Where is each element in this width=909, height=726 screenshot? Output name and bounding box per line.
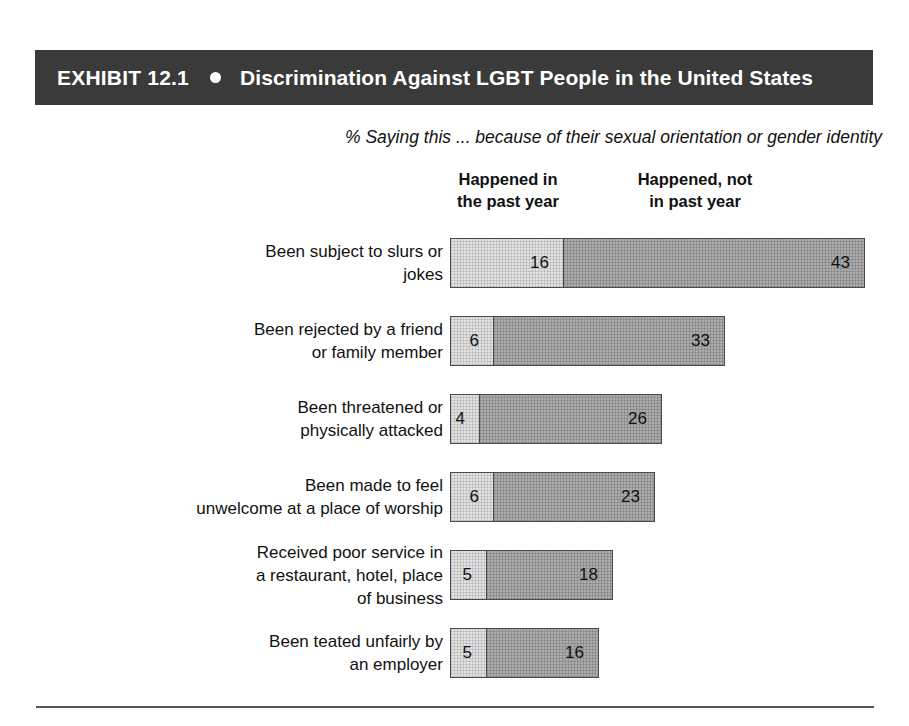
bar-row-label-line: Received poor service in bbox=[23, 541, 443, 564]
bar-segment-value: 6 bbox=[470, 487, 493, 507]
exhibit-number-label: EXHIBIT 12.1 bbox=[57, 66, 189, 90]
bar-segment-past-year: 5 bbox=[451, 629, 486, 677]
bar-row-label: Been subject to slurs orjokes bbox=[23, 240, 443, 286]
stacked-bar: 1643 bbox=[450, 238, 865, 288]
bar-segment-not-past-year: 16 bbox=[486, 629, 598, 677]
bar-rows: Been subject to slurs orjokes1643Been re… bbox=[0, 224, 909, 692]
bar-row-label-line: an employer bbox=[23, 653, 443, 676]
bar-row: Been made to feelunwelcome at a place of… bbox=[0, 458, 909, 536]
bar-row-label-line: Been threatened or bbox=[23, 396, 443, 419]
stacked-bar: 633 bbox=[450, 316, 725, 366]
stacked-bar: 623 bbox=[450, 472, 655, 522]
column-header-not-past-year: Happened, not in past year bbox=[600, 168, 790, 212]
bar-segment-value: 23 bbox=[621, 487, 654, 507]
bar-segment-value: 6 bbox=[470, 331, 493, 351]
chart-subtitle: % Saying this ... because of their sexua… bbox=[0, 127, 882, 148]
stacked-bar: 516 bbox=[450, 628, 599, 678]
bar-row-label-line: a restaurant, hotel, place bbox=[23, 564, 443, 587]
bar-segment-past-year: 6 bbox=[451, 317, 493, 365]
bar-row: Been subject to slurs orjokes1643 bbox=[0, 224, 909, 302]
column-headers: Happened in the past year Happened, not … bbox=[0, 168, 909, 216]
bar-row-label: Been teated unfairly byan employer bbox=[23, 630, 443, 676]
column-header-not-past-year-line2: in past year bbox=[600, 190, 790, 212]
bar-row: Been rejected by a friendor family membe… bbox=[0, 302, 909, 380]
column-header-not-past-year-line1: Happened, not bbox=[600, 168, 790, 190]
bar-segment-not-past-year: 18 bbox=[486, 551, 612, 599]
exhibit-title: Discrimination Against LGBT People in th… bbox=[240, 66, 813, 90]
bar-segment-value: 33 bbox=[691, 331, 724, 351]
stacked-bar: 426 bbox=[450, 394, 662, 444]
bar-row-label-line: jokes bbox=[23, 263, 443, 286]
bar-segment-past-year: 5 bbox=[451, 551, 486, 599]
bar-row-label-line: Been made to feel bbox=[23, 474, 443, 497]
bar-segment-not-past-year: 43 bbox=[563, 239, 864, 287]
bar-segment-value: 16 bbox=[565, 643, 598, 663]
bar-row-label-line: Been rejected by a friend bbox=[23, 318, 443, 341]
bar-segment-value: 4 bbox=[456, 409, 479, 429]
bar-segment-not-past-year: 33 bbox=[493, 317, 724, 365]
bar-row-label-line: Been teated unfairly by bbox=[23, 630, 443, 653]
exhibit-header-bar: EXHIBIT 12.1 Discrimination Against LGBT… bbox=[35, 50, 873, 105]
bar-row: Received poor service ina restaurant, ho… bbox=[0, 536, 909, 614]
bar-segment-value: 5 bbox=[463, 565, 486, 585]
bar-row-label-line: Been subject to slurs or bbox=[23, 240, 443, 263]
bar-segment-value: 26 bbox=[628, 409, 661, 429]
bar-row-label: Been made to feelunwelcome at a place of… bbox=[23, 474, 443, 520]
bullet-dot-icon bbox=[210, 72, 221, 83]
bar-row-label-line: physically attacked bbox=[23, 419, 443, 442]
column-header-past-year-line2: the past year bbox=[443, 190, 573, 212]
bar-row-label: Been threatened orphysically attacked bbox=[23, 396, 443, 442]
figure-bottom-rule bbox=[36, 706, 874, 708]
exhibit-figure: EXHIBIT 12.1 Discrimination Against LGBT… bbox=[0, 0, 909, 726]
column-header-past-year: Happened in the past year bbox=[443, 168, 573, 212]
bar-segment-not-past-year: 26 bbox=[479, 395, 661, 443]
bar-row-label: Received poor service ina restaurant, ho… bbox=[23, 541, 443, 610]
stacked-bar: 518 bbox=[450, 550, 613, 600]
bar-segment-value: 18 bbox=[579, 565, 612, 585]
bar-segment-value: 16 bbox=[530, 253, 563, 273]
bar-segment-value: 43 bbox=[831, 253, 864, 273]
column-header-past-year-line1: Happened in bbox=[443, 168, 573, 190]
bar-segment-value: 5 bbox=[463, 643, 486, 663]
bar-segment-not-past-year: 23 bbox=[493, 473, 654, 521]
bar-row: Been threatened orphysically attacked426 bbox=[0, 380, 909, 458]
bar-segment-past-year: 16 bbox=[451, 239, 563, 287]
bar-segment-past-year: 6 bbox=[451, 473, 493, 521]
bar-row-label: Been rejected by a friendor family membe… bbox=[23, 318, 443, 364]
bar-row-label-line: of business bbox=[23, 587, 443, 610]
bar-segment-past-year: 4 bbox=[451, 395, 479, 443]
bar-row-label-line: unwelcome at a place of worship bbox=[23, 497, 443, 520]
bar-row: Been teated unfairly byan employer516 bbox=[0, 614, 909, 692]
bar-row-label-line: or family member bbox=[23, 341, 443, 364]
